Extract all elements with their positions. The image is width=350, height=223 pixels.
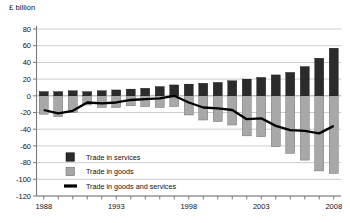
bar-services[interactable] [39, 92, 48, 96]
bar-services[interactable] [97, 91, 106, 96]
legend-label: Trade in goods [86, 167, 134, 176]
bar-goods[interactable] [97, 96, 106, 108]
bar-goods[interactable] [329, 96, 338, 174]
y-tick-label: 20 [23, 75, 31, 84]
bar-services[interactable] [141, 88, 150, 96]
legend-swatch-line [64, 184, 77, 187]
trade-balance-chart: 806040200-20-40-60-80-100-12019881993199… [0, 0, 350, 223]
y-tick-label: 60 [23, 41, 31, 50]
bar-services[interactable] [184, 84, 193, 96]
legend-label: Trade in goods and services [86, 182, 176, 191]
bar-services[interactable] [315, 58, 324, 96]
bar-services[interactable] [300, 67, 309, 96]
bar-services[interactable] [83, 92, 92, 96]
bar-services[interactable] [68, 91, 77, 96]
bar-goods[interactable] [184, 96, 193, 115]
bar-services[interactable] [126, 89, 135, 96]
bar-services[interactable] [286, 72, 295, 95]
bar-services[interactable] [228, 81, 237, 96]
x-tick-label: 1998 [180, 202, 197, 211]
chart-page: £ billion 806040200-20-40-60-80-100-1201… [0, 0, 350, 223]
y-tick-label: -120 [16, 192, 31, 201]
y-tick-label: 80 [23, 25, 31, 34]
bar-services[interactable] [257, 77, 266, 95]
bar-services[interactable] [112, 90, 121, 96]
y-tick-label: -60 [20, 142, 31, 151]
bar-services[interactable] [199, 83, 208, 96]
bar-goods[interactable] [286, 96, 295, 154]
y-tick-label: -20 [20, 108, 31, 117]
x-tick-label: 1988 [35, 202, 52, 211]
bar-services[interactable] [242, 79, 251, 96]
x-tick-label: 2008 [325, 202, 342, 211]
bar-services[interactable] [54, 92, 63, 96]
legend-swatch-services [66, 153, 74, 161]
bar-goods[interactable] [141, 96, 150, 107]
y-tick-label: -40 [20, 125, 31, 134]
bar-services[interactable] [329, 48, 338, 96]
bar-goods[interactable] [271, 96, 280, 147]
y-tick-label: -80 [20, 158, 31, 167]
y-tick-label: -100 [16, 175, 31, 184]
y-tick-label: 0 [27, 92, 31, 101]
bar-services[interactable] [271, 75, 280, 96]
x-tick-label: 1993 [108, 202, 125, 211]
bar-services[interactable] [170, 85, 179, 96]
y-tick-label: 40 [23, 58, 31, 67]
bar-goods[interactable] [300, 96, 309, 160]
bar-services[interactable] [155, 87, 164, 96]
legend-label: Trade in services [86, 153, 141, 162]
legend-swatch-goods [66, 167, 74, 175]
bar-services[interactable] [213, 82, 222, 95]
bar-goods[interactable] [257, 96, 266, 137]
x-tick-label: 2003 [253, 202, 270, 211]
